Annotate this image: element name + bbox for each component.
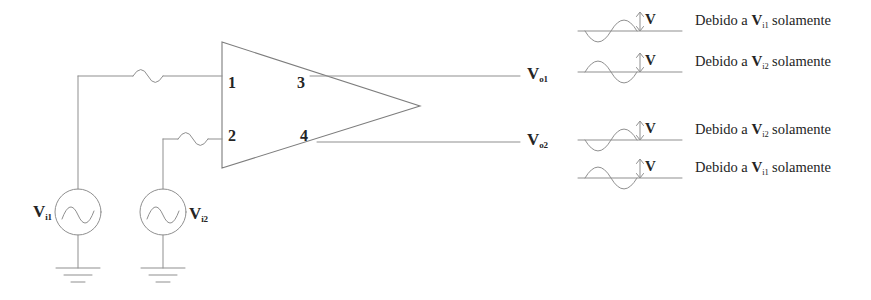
amplitude-label-row-3: V xyxy=(645,121,656,136)
ac-source-1 xyxy=(55,189,101,268)
amplitude-label-row-4: V xyxy=(645,159,656,174)
caption-row-3-sub: i2 xyxy=(762,129,768,139)
source-label-vi1-sub: i1 xyxy=(45,212,52,222)
sine-marker-input-2 xyxy=(178,133,208,146)
source-label-vi2-v: V xyxy=(189,204,201,223)
ac-source-2-sine-icon xyxy=(147,207,179,223)
pin-number-1: 1 xyxy=(228,75,236,91)
caption-row-2-suffix: solamente xyxy=(768,53,830,69)
ground-symbol-1 xyxy=(56,268,100,282)
caption-row-3: Debido a Vi2 solamente xyxy=(695,122,831,137)
source-label-vi1-v: V xyxy=(33,202,45,221)
caption-row-3-suffix: solamente xyxy=(768,121,830,137)
caption-row-4-sub: i1 xyxy=(762,167,768,177)
output-label-vo2-v: V xyxy=(527,130,539,149)
pin-number-3: 3 xyxy=(297,75,305,91)
pin-number-4: 4 xyxy=(300,128,308,144)
caption-row-1: Debido a Vi1 solamente xyxy=(695,13,831,28)
caption-row-3-prefix: Debido a xyxy=(695,121,751,137)
schematic-canvas xyxy=(0,0,871,300)
caption-row-1-suffix: solamente xyxy=(768,12,830,28)
output-label-vo2-sub: o2 xyxy=(539,140,548,150)
amplitude-label-row-2: V xyxy=(645,53,656,68)
sine-marker-input-1 xyxy=(133,70,163,83)
output-label-vo1-sub: o1 xyxy=(539,74,548,84)
caption-row-4-v: V xyxy=(751,159,762,175)
caption-row-2-sub: i2 xyxy=(762,61,768,71)
caption-row-1-prefix: Debido a xyxy=(695,12,751,28)
ac-source-1-sine-icon xyxy=(62,207,94,223)
waveform-row-3 xyxy=(578,121,682,151)
output-label-vo1: Vo1 xyxy=(527,65,548,82)
source-label-vi2-sub: i2 xyxy=(201,214,208,224)
caption-row-4: Debido a Vi1 solamente xyxy=(695,160,831,175)
amplifier-triangle xyxy=(222,42,420,168)
output-label-vo2: Vo2 xyxy=(527,131,548,148)
ac-source-2 xyxy=(140,189,186,268)
waveform-row-4 xyxy=(578,159,682,189)
output-label-vo1-v: V xyxy=(527,64,539,83)
source-label-vi2: Vi2 xyxy=(189,205,208,222)
caption-row-3-v: V xyxy=(751,121,762,137)
ground-symbol-2 xyxy=(141,268,185,282)
waveform-row-3-amplitude-arrow xyxy=(637,121,644,140)
pin-number-2: 2 xyxy=(228,128,236,144)
waveform-row-2-amplitude-arrow xyxy=(637,53,644,72)
source-label-vi1: Vi1 xyxy=(33,203,52,220)
figure-differential-amplifier: 1 2 3 4 Vi1 Vi2 Vo1 Vo2 V V V V Debido a… xyxy=(0,0,871,300)
amplitude-label-row-1: V xyxy=(645,12,656,27)
waveform-row-1-amplitude-arrow xyxy=(637,12,644,31)
caption-row-4-suffix: solamente xyxy=(768,159,830,175)
waveform-row-2 xyxy=(578,53,682,83)
waveform-row-4-amplitude-arrow xyxy=(637,159,644,178)
input-wire-1 xyxy=(78,70,222,190)
caption-row-2-prefix: Debido a xyxy=(695,53,751,69)
caption-row-2: Debido a Vi2 solamente xyxy=(695,54,831,69)
caption-row-1-sub: i1 xyxy=(762,20,768,30)
input-wire-2 xyxy=(163,133,222,190)
caption-row-4-prefix: Debido a xyxy=(695,159,751,175)
caption-row-1-v: V xyxy=(751,12,762,28)
waveform-row-1 xyxy=(578,12,682,42)
caption-row-2-v: V xyxy=(751,53,762,69)
